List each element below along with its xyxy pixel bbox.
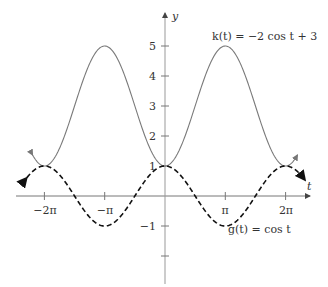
y-tick-neg1: −1 [140,220,156,233]
y-tick-4: 4 [149,70,156,83]
y-axis-label: y [171,10,179,23]
y-tick-5: 5 [149,40,156,53]
x-tick-2pi: 2π [279,204,293,217]
plot-area: −2π −π π 2π 5 4 3 2 1 −1 y t k(t) = −2 c… [0,0,328,287]
g-function-label: g(t) = cos t [228,223,291,236]
x-tick-neg2pi: −2π [33,204,56,217]
x-tick-pi: π [221,204,228,217]
y-tick-3: 3 [149,100,156,113]
x-axis-label: t [307,180,312,193]
k-function-label: k(t) = −2 cos t + 3 [212,30,317,43]
y-tick-2: 2 [149,130,156,143]
x-tick-negpi: −π [97,204,113,217]
chart-container: −2π −π π 2π 5 4 3 2 1 −1 y t k(t) = −2 c… [0,0,328,287]
